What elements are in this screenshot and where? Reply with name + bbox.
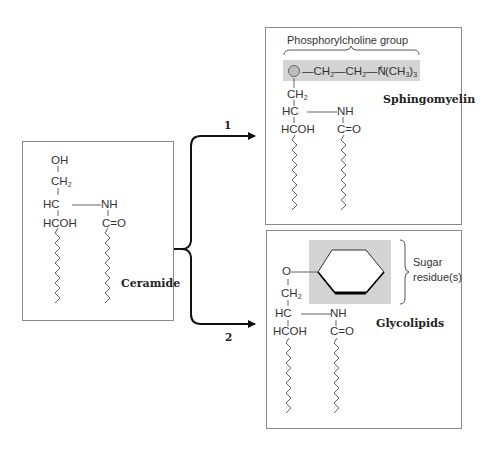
sphingomyelin-chain-right (341, 135, 346, 210)
ceramide-chain-right (105, 228, 110, 303)
subscript: 2 (330, 71, 334, 78)
ceramide-chain-left (55, 228, 60, 303)
phosphorylcholine-group-label: Phosphorylcholine group (287, 35, 408, 46)
ch2-subscript: 2 (68, 181, 72, 188)
ceramide-nh: NH (101, 199, 118, 211)
glycolipid-nh: NH (330, 308, 347, 320)
ch2-text: CH (51, 175, 68, 187)
subscript: 3 (413, 71, 417, 78)
subscript: 2 (298, 293, 302, 300)
methyl-text: (CH (385, 65, 405, 77)
phosphorylcholine-chain: —CH2—CH2—N+(CH3)3 (302, 64, 417, 78)
glycolipid-ch2: CH2 (281, 288, 302, 300)
glycolipid-hc: HC (275, 308, 292, 320)
ceramide-co: C=O (102, 218, 126, 230)
sugar-residue-label-line1: Sugar (413, 257, 442, 268)
ch2-text: CH (346, 65, 363, 77)
sugar-brace (400, 240, 409, 304)
glycolipid-chain-right (334, 338, 339, 413)
sugar-hexagon-icon (318, 250, 384, 293)
glycolipid-hcoh: HCOH (273, 326, 307, 338)
sphingomyelin-ch2: CH2 (287, 89, 308, 101)
sugar-residue-label-line2: residue(s) (413, 272, 462, 283)
ceramide-hc: HC (43, 199, 60, 211)
sphingomyelin-label: Sphingomyelin (383, 94, 475, 105)
sphingomyelin-co: C=O (337, 124, 361, 136)
ch2-text: CH (287, 88, 304, 100)
ch2-text: CH (314, 65, 331, 77)
subscript: 2 (362, 71, 366, 78)
glycolipid-o: O (282, 266, 291, 278)
ceramide-ch2: CH2 (51, 176, 72, 188)
sphingomyelin-hcoh: HCOH (281, 124, 315, 136)
nitrogen-text: N (378, 65, 386, 77)
ch2-text: CH (281, 287, 298, 299)
sphingomyelin-hc: HC (282, 106, 299, 118)
pathway-number-1: 1 (224, 119, 231, 131)
glycolipid-co: C=O (330, 326, 354, 338)
glycolipids-label: Glycolipids (376, 318, 444, 329)
subscript: 2 (304, 94, 308, 101)
glycolipid-chain-left (286, 338, 291, 413)
sphingomyelin-nh: NH (337, 106, 354, 118)
phosphate-circle-icon (289, 66, 300, 77)
phosphorylcholine-brace (284, 46, 419, 55)
pathway-number-2: 2 (225, 331, 232, 343)
ceramide-hcoh: HCOH (43, 218, 77, 230)
sphingomyelin-chain-left (292, 135, 297, 210)
ceramide-oh: OH (51, 155, 68, 167)
ceramide-label: Ceramide (121, 278, 180, 289)
